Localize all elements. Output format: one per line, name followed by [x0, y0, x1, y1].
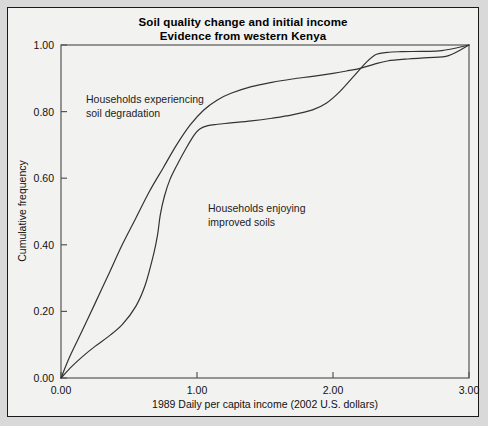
- y-axis-tick-labels: 0.000.200.400.600.801.00: [34, 39, 55, 384]
- annotation-soil-degradation-line-2: soil degradation: [86, 107, 160, 119]
- y-axis-ticks: [61, 45, 67, 378]
- x-axis-ticks: [61, 372, 469, 378]
- y-tick-label: 0.00: [34, 372, 55, 384]
- figure-panel: Soil quality change and initial income E…: [7, 7, 479, 417]
- annotation-improved-soils-line-1: Households enjoying: [208, 202, 306, 214]
- x-axis-title: 1989 Daily per capita income (2002 U.S. …: [152, 398, 378, 410]
- x-tick-label: 3.00: [459, 384, 480, 396]
- y-tick-label: 0.40: [34, 239, 55, 251]
- x-tick-label: 1.00: [187, 384, 208, 396]
- x-tick-label: 0.00: [51, 384, 72, 396]
- y-tick-label: 1.00: [34, 39, 55, 51]
- y-axis-title: Cumulative frequency: [16, 159, 28, 261]
- y-tick-label: 0.80: [34, 106, 55, 118]
- chart-plot-area: 0.000.200.400.600.801.00 0.001.002.003.0…: [8, 8, 480, 418]
- y-tick-label: 0.60: [34, 172, 55, 184]
- annotation-soil-degradation-line-1: Households experiencing: [86, 93, 204, 105]
- x-axis-tick-labels: 0.001.002.003.00: [51, 384, 480, 396]
- annotation-improved-soils-line-2: improved soils: [208, 216, 275, 228]
- x-tick-label: 2.00: [323, 384, 344, 396]
- y-tick-label: 0.20: [34, 305, 55, 317]
